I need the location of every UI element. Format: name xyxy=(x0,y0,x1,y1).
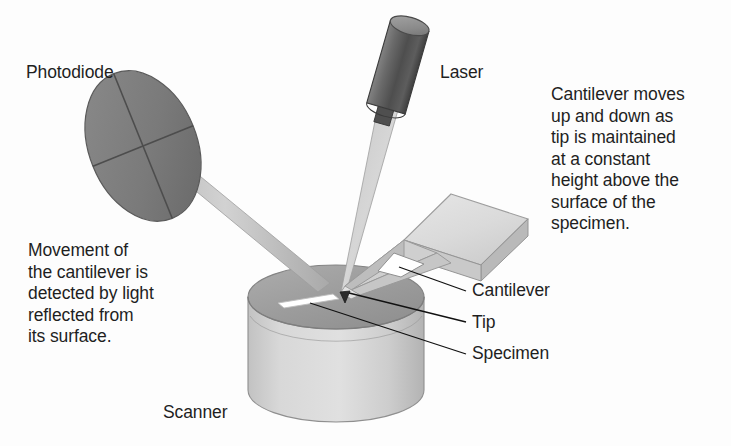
annotation-left-line: detected by light xyxy=(28,283,154,305)
annotation-right-line: Cantilever moves xyxy=(551,84,685,106)
annotation-left-line: Movement of xyxy=(28,240,154,262)
label-laser: Laser xyxy=(440,64,483,82)
annotation-left-line: its surface. xyxy=(28,326,154,348)
annotation-right-line: at a constant xyxy=(551,149,685,171)
annotation-right-line: tip is maintained xyxy=(551,127,685,149)
annotation-right-line: up and down as xyxy=(551,106,685,128)
annotation-right-line: surface of the xyxy=(551,192,685,214)
label-photodiode: Photodiode xyxy=(26,64,114,82)
label-cantilever: Cantilever xyxy=(472,282,550,300)
scanner-shape xyxy=(248,265,424,422)
label-specimen: Specimen xyxy=(472,345,549,363)
label-scanner: Scanner xyxy=(163,404,227,422)
annotation-right: Cantilever moves up and down as tip is m… xyxy=(551,84,685,235)
annotation-right-line: specimen. xyxy=(551,213,685,235)
afm-diagram-page: Photodiode Laser Scanner Cantilever Tip … xyxy=(0,0,731,446)
annotation-right-line: height above the xyxy=(551,170,685,192)
label-tip: Tip xyxy=(472,314,495,332)
annotation-left: Movement of the cantilever is detected b… xyxy=(28,240,154,348)
annotation-left-line: reflected from xyxy=(28,305,154,327)
annotation-left-line: the cantilever is xyxy=(28,262,154,284)
laser-shape xyxy=(362,12,431,129)
